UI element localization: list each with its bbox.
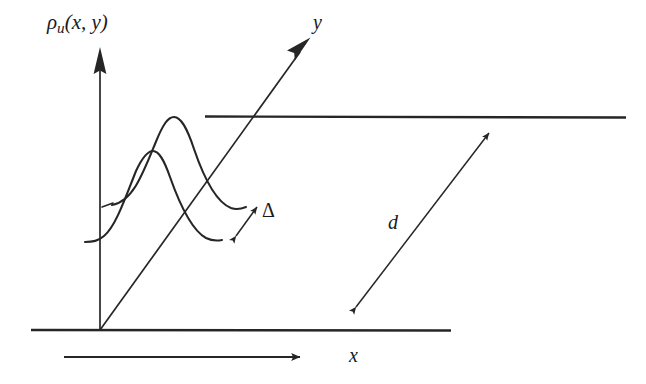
distance-label: d [388, 212, 398, 232]
diagram-canvas: ρu(x, y) y x d Δ [0, 0, 646, 384]
gap-label: Δ [262, 200, 275, 220]
back-roughness-curve [112, 117, 246, 209]
diagram-vector-layer [0, 0, 646, 384]
upper-plate-line [205, 117, 626, 118]
vertical-axis-label: ρu(x, y) [47, 12, 108, 36]
gap-arrow [236, 207, 257, 236]
front-roughness-curve [85, 151, 222, 242]
rho-symbol: ρ [47, 10, 57, 34]
distance-arrow [356, 133, 489, 307]
oblique-y-axis-arrowhead [287, 38, 311, 61]
x-axis-label: x [349, 345, 358, 365]
oblique-y-axis-line [100, 52, 300, 330]
rho-argument: (x, y) [65, 10, 108, 34]
rho-subscript: u [57, 20, 65, 36]
lower-plate-line [31, 330, 451, 331]
y-axis-label: y [313, 12, 322, 32]
vertical-axis-arrowhead [94, 47, 107, 74]
